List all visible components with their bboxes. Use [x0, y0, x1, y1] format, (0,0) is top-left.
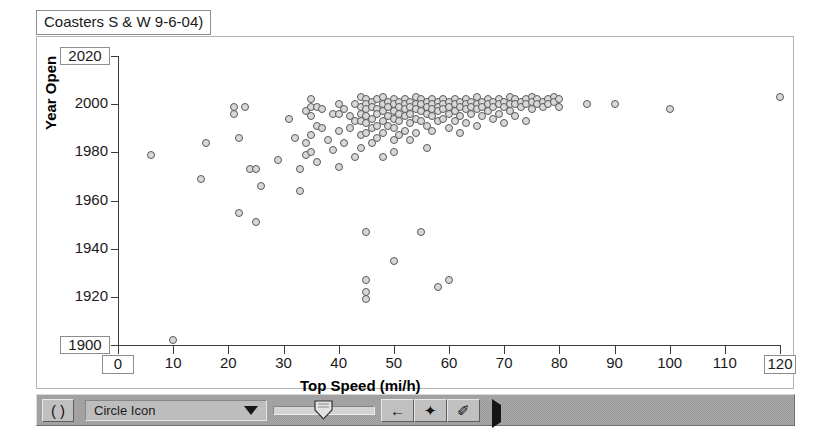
data-point[interactable] [318, 105, 326, 113]
chart-window: Coasters S & W 9-6-04) Year Open Top Spe… [0, 0, 832, 447]
data-point[interactable] [434, 283, 442, 291]
data-point[interactable] [583, 100, 591, 108]
scatter-plot-area[interactable] [118, 56, 780, 345]
play-button[interactable] [492, 405, 501, 423]
data-point[interactable] [257, 182, 265, 190]
data-point[interactable] [555, 103, 563, 111]
y-tick-label: 1920 [58, 288, 108, 303]
diamond-button[interactable]: ✦ [414, 399, 447, 422]
data-point[interactable] [235, 134, 243, 142]
data-point[interactable] [313, 158, 321, 166]
x-tick [504, 346, 505, 354]
x-tick-label: 40 [317, 355, 361, 371]
data-point[interactable] [495, 110, 503, 118]
data-point[interactable] [666, 105, 674, 113]
data-point[interactable] [335, 163, 343, 171]
data-point[interactable] [401, 127, 409, 135]
data-point[interactable] [445, 124, 453, 132]
y-tick [111, 104, 118, 105]
y-axis-title: Year Open [42, 56, 59, 130]
data-point[interactable] [511, 112, 519, 120]
data-point[interactable] [197, 175, 205, 183]
x-axis-endpoint-label[interactable]: 120 [764, 355, 796, 374]
data-point[interactable] [379, 153, 387, 161]
data-point[interactable] [296, 187, 304, 195]
x-tick-label: 110 [703, 355, 747, 371]
rotate-button[interactable]: ( ) [42, 399, 74, 422]
data-point[interactable] [611, 100, 619, 108]
data-point[interactable] [362, 228, 370, 236]
data-point[interactable] [335, 127, 343, 135]
x-axis-endpoint-label[interactable]: 0 [102, 355, 134, 374]
data-point[interactable] [302, 139, 310, 147]
data-point[interactable] [340, 139, 348, 147]
x-tick-label: 70 [482, 355, 526, 371]
y-tick-label: 2000 [58, 95, 108, 110]
data-point[interactable] [274, 156, 282, 164]
data-point[interactable] [390, 148, 398, 156]
data-point[interactable] [241, 103, 249, 111]
data-point[interactable] [428, 127, 436, 135]
data-point[interactable] [147, 151, 155, 159]
data-point[interactable] [285, 115, 293, 123]
y-tick [111, 297, 118, 298]
x-tick [118, 346, 119, 354]
y-axis-endpoint-label[interactable]: 2020 [60, 47, 110, 65]
data-point[interactable] [318, 124, 326, 132]
x-tick-label: 90 [593, 355, 637, 371]
x-tick [559, 346, 560, 354]
x-tick [670, 346, 671, 354]
data-point[interactable] [462, 119, 470, 127]
arrow-left-icon: ← [390, 403, 405, 418]
chevron-down-icon[interactable] [244, 406, 258, 415]
x-tick-label: 80 [537, 355, 581, 371]
data-point[interactable] [307, 131, 315, 139]
window-title[interactable]: Coasters S & W 9-6-04) [36, 10, 211, 35]
data-point[interactable] [346, 124, 354, 132]
y-tick [111, 152, 118, 153]
size-slider-thumb[interactable] [314, 400, 333, 420]
x-tick-label: 100 [648, 355, 692, 371]
x-tick [780, 346, 781, 354]
data-point[interactable] [473, 122, 481, 130]
data-point[interactable] [357, 144, 365, 152]
data-point[interactable] [362, 276, 370, 284]
pencil-button[interactable]: ✐ [447, 399, 480, 422]
data-point[interactable] [329, 146, 337, 154]
y-tick-label: 1940 [58, 240, 108, 255]
data-point[interactable] [296, 165, 304, 173]
data-point[interactable] [252, 218, 260, 226]
icon-selector-dropdown[interactable]: Circle Icon [85, 400, 267, 421]
triangle-right-icon [492, 399, 501, 428]
data-point[interactable] [307, 112, 315, 120]
data-point[interactable] [252, 165, 260, 173]
data-point[interactable] [500, 119, 508, 127]
data-point[interactable] [423, 144, 431, 152]
y-axis-endpoint-label[interactable]: 1900 [60, 336, 110, 354]
data-point[interactable] [522, 117, 530, 125]
data-point[interactable] [169, 336, 177, 344]
y-tick-label: 1960 [58, 192, 108, 207]
data-point[interactable] [776, 93, 784, 101]
x-axis-title: Top Speed (mi/h) [300, 377, 421, 394]
x-tick [394, 346, 395, 354]
data-point[interactable] [324, 136, 332, 144]
data-point[interactable] [202, 139, 210, 147]
data-point[interactable] [230, 110, 238, 118]
data-point[interactable] [291, 134, 299, 142]
data-point[interactable] [412, 129, 420, 137]
data-point[interactable] [417, 228, 425, 236]
data-point[interactable] [379, 129, 387, 137]
data-point[interactable] [445, 276, 453, 284]
x-tick-label: 10 [151, 355, 195, 371]
data-point[interactable] [351, 153, 359, 161]
back-arrow-button[interactable]: ← [381, 399, 414, 422]
data-point[interactable] [362, 295, 370, 303]
rotate-icon: ( ) [51, 403, 65, 418]
data-point[interactable] [390, 257, 398, 265]
data-point[interactable] [456, 129, 464, 137]
x-tick [725, 346, 726, 354]
data-point[interactable] [307, 148, 315, 156]
data-point[interactable] [235, 209, 243, 217]
data-point[interactable] [406, 136, 414, 144]
